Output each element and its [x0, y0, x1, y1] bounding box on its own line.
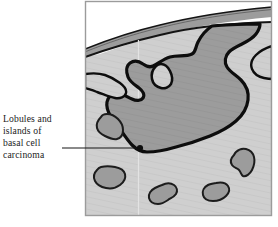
annotation-label-line-2: islands of — [3, 125, 65, 137]
annotation-label-line-4: carcinoma — [3, 149, 65, 161]
tumor-inner-notch — [152, 64, 172, 88]
figure-page: Lobules and islands of basal cell carcin… — [0, 0, 278, 227]
pointer-dot — [137, 145, 143, 151]
tumor-island-mid-left — [94, 166, 125, 188]
annotation-label-line-1: Lobules and — [3, 113, 65, 125]
annotation-label-line-3: basal cell — [3, 137, 65, 149]
tissue-block — [85, 1, 272, 216]
annotation-label: Lobules and islands of basal cell carcin… — [3, 113, 65, 161]
